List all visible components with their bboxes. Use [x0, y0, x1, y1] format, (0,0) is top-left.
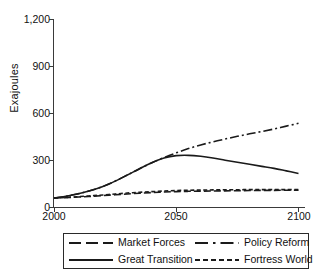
- legend-label-great-transition: Great Transition: [118, 254, 193, 265]
- legend-swatch-dash-dot: [194, 238, 240, 248]
- series-line-policy-reform: [54, 123, 299, 198]
- legend-label-market-forces: Market Forces: [118, 237, 185, 248]
- y-axis-ticks: [49, 20, 54, 208]
- legend-item-great-transition: Great Transition: [64, 251, 192, 268]
- data-series-group: [54, 123, 299, 198]
- legend-label-fortress-world: Fortress World: [244, 254, 313, 265]
- legend-item-policy-reform: Policy Reform: [192, 234, 308, 251]
- series-line-market-forces: [54, 190, 299, 198]
- legend-label-policy-reform: Policy Reform: [244, 237, 309, 248]
- legend-swatch-solid: [68, 255, 114, 265]
- legend-item-fortress-world: Fortress World: [192, 251, 308, 268]
- legend-item-market-forces: Market Forces: [64, 234, 192, 251]
- legend-swatch-long-dash: [68, 238, 114, 248]
- legend-swatch-short-dash: [194, 255, 240, 265]
- chart-legend: Market Forces Policy Reform Great Transi…: [63, 233, 309, 269]
- x-axis-ticks: [55, 208, 299, 213]
- chart-figure: Exajoules 1,200 900 600 300 0 2000 2050 …: [0, 0, 315, 274]
- axis-lines: [54, 19, 306, 208]
